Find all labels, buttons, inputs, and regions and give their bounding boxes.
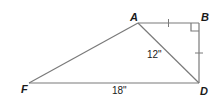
vertex-label-d: D: [200, 85, 208, 97]
segment-fa: [29, 23, 138, 83]
vertex-label-a: A: [129, 11, 138, 23]
vertex-label-f: F: [21, 83, 28, 95]
measurement-label-ad: 12": [147, 49, 162, 60]
right-angle-marker: [191, 23, 199, 31]
measurement-label-fd: 18": [112, 85, 127, 96]
geometry-diagram: A B D F 12" 18": [0, 0, 218, 103]
vertex-label-b: B: [201, 11, 209, 23]
